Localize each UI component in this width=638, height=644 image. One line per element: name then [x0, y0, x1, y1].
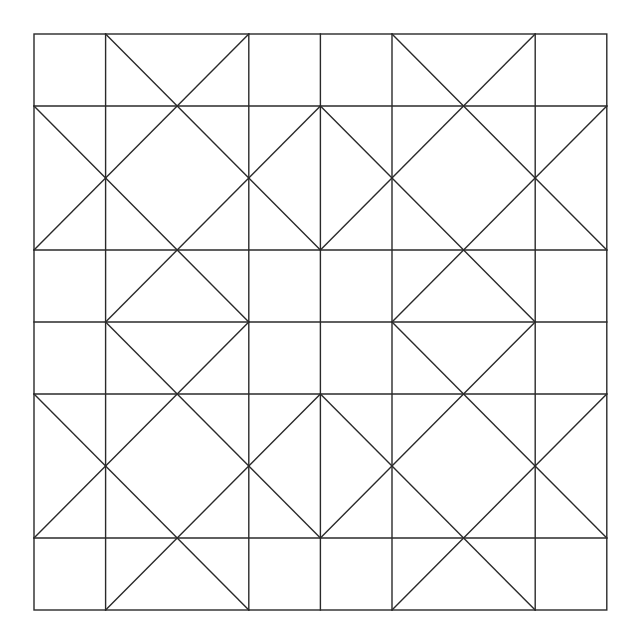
diagonal-line-top-left: [34, 106, 249, 322]
diagonal-line-top-right: [320, 34, 535, 250]
diagonal-line-top-right: [320, 106, 535, 322]
diagonal-line-top-right: [392, 106, 607, 322]
diagonal-line-bottom-right: [320, 322, 535, 538]
diagonal-line-bottom-right: [392, 394, 607, 610]
diagonal-line-bottom-left: [106, 394, 321, 610]
diagonal-line-top-left: [34, 34, 249, 250]
diagonal-line-bottom-right: [392, 322, 607, 538]
diagonal-line-top-right: [392, 34, 607, 250]
quilt-pattern-diagram: [0, 0, 638, 644]
grid-lines: [34, 34, 607, 610]
diagonal-line-bottom-left: [106, 322, 321, 538]
diagonal-line-top-left: [106, 106, 321, 322]
diagonal-line-bottom-left: [34, 394, 249, 610]
diagonal-line-top-left: [106, 34, 321, 250]
diagonal-line-bottom-right: [320, 394, 535, 610]
diagonal-line-bottom-left: [34, 322, 249, 538]
